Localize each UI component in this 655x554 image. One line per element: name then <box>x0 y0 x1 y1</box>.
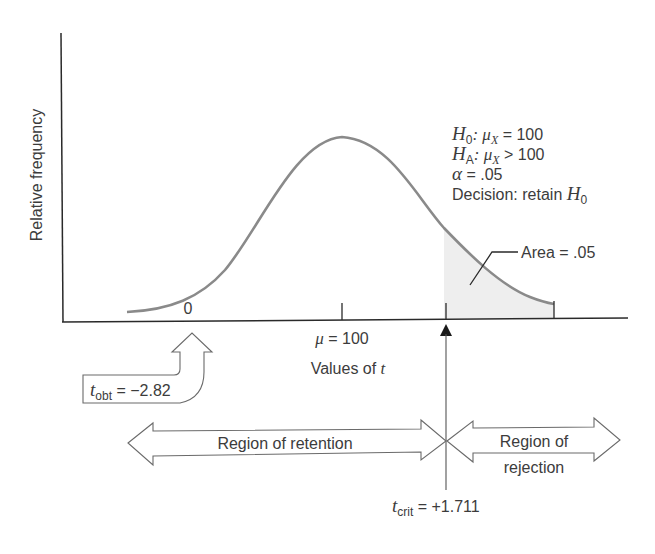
hypotheses-block: H0: μX = 100 HA: μX > 100 α = .05 Decisi… <box>451 123 587 207</box>
tick-label-zero: 0 <box>184 300 193 317</box>
rejection-region-label-line1: Region of <box>500 433 569 450</box>
area-label: Area = .05 <box>521 244 595 261</box>
rejection-region-label-line2: rejection <box>504 459 564 476</box>
alpha-level: α = .05 <box>452 163 503 184</box>
y-axis <box>61 33 63 322</box>
x-axis-label: Values of t <box>311 359 387 378</box>
decision-text: Decision: retain H0 <box>452 183 587 207</box>
x-axis <box>62 318 628 322</box>
y-axis-label: Relative frequency <box>28 109 45 242</box>
rejection-area-shade <box>444 228 554 318</box>
retention-region-label: Region of retention <box>217 435 352 452</box>
t-crit-label: tcrit = +1.711 <box>392 495 480 519</box>
t-test-diagram: Relative frequency 0 μ = 100 Values of t… <box>0 0 655 554</box>
tick-label-mu: μ = 100 <box>314 329 369 348</box>
